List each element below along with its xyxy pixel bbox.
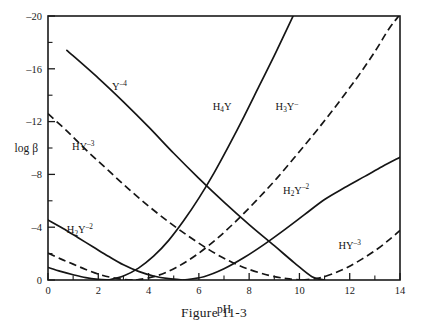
- figure-container: 024681012140–4–8–12–16–20 Y–4HY–3H2Y–2H4…: [0, 0, 428, 336]
- x-tick-label: 2: [96, 285, 101, 296]
- y-tick-label: –8: [31, 169, 43, 180]
- species-label-hy3_right: HY–3: [338, 238, 361, 251]
- y-tick-label: –16: [25, 64, 42, 75]
- speciation-chart: 024681012140–4–8–12–16–20 Y–4HY–3H2Y–2H4…: [0, 0, 428, 336]
- x-tick-label: 14: [395, 285, 406, 296]
- species-curve: [67, 50, 325, 280]
- species-label-h4y: H4Y: [213, 101, 232, 115]
- species-label-y4: Y–4: [112, 79, 127, 92]
- y-axis-label: log β: [15, 142, 39, 155]
- x-tick-label: 0: [45, 285, 50, 296]
- y-tick-label: –20: [25, 11, 42, 22]
- y-tick-label: 0: [37, 275, 42, 286]
- axis-tick-labels: 024681012140–4–8–12–16–20: [25, 11, 406, 296]
- x-tick-label: 4: [146, 285, 152, 296]
- species-curve: [48, 267, 108, 280]
- x-tick-label: 8: [247, 285, 252, 296]
- species-label-h2y2_right: H2Y–2: [283, 182, 309, 198]
- x-tick-label: 12: [344, 285, 355, 296]
- y-tick-label: –4: [31, 222, 43, 233]
- species-label-hy3_left: HY–3: [72, 139, 95, 152]
- species-curve: [302, 231, 400, 281]
- species-label-h3y: H3Y–: [276, 99, 299, 115]
- series-labels: Y–4HY–3H2Y–2H4YH3Y–H2Y–2HY–3: [67, 79, 361, 251]
- y-tick-label: –12: [25, 116, 42, 127]
- species-curve: [108, 16, 293, 280]
- figure-caption: Figure 11-3: [0, 305, 428, 321]
- x-tick-label: 6: [196, 285, 201, 296]
- species-label-h2y2_left: H2Y–2: [67, 222, 93, 238]
- x-tick-label: 10: [294, 285, 305, 296]
